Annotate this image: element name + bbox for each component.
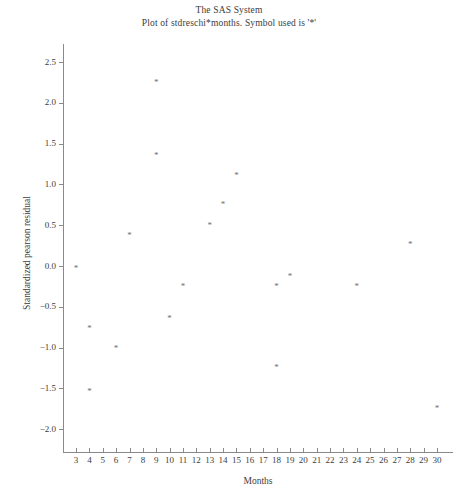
x-axis-tick [250,448,251,453]
y-axis-tick [59,62,64,63]
y-axis-tick [59,266,64,267]
y-axis-spine [63,44,64,453]
x-axis-tick-label: 30 [427,455,447,465]
x-axis-tick [370,448,371,453]
x-axis-tick [290,448,291,453]
data-point: * [407,240,414,249]
x-axis-spine [63,452,453,453]
x-axis-tick [424,448,425,453]
data-point: * [286,272,293,281]
data-point: * [220,200,227,209]
data-point: * [353,282,360,291]
x-axis-tick [223,448,224,453]
x-axis-tick [170,448,171,453]
x-axis-tick [143,448,144,453]
data-point: * [86,324,93,333]
data-point: * [233,171,240,180]
y-axis-tick [59,225,64,226]
x-axis-tick [103,448,104,453]
data-point: * [434,404,441,413]
x-axis-tick [89,448,90,453]
x-axis-title: Months [63,476,453,486]
x-axis-tick [196,448,197,453]
x-axis-tick [397,448,398,453]
data-point: * [166,314,173,323]
data-point: * [273,282,280,291]
x-axis-tick [317,448,318,453]
x-axis-tick [210,448,211,453]
data-point: * [180,282,187,291]
x-axis-tick [183,448,184,453]
data-point: * [86,387,93,396]
data-point: * [73,264,80,273]
x-axis-tick [384,448,385,453]
sas-plot-page: The SAS System Plot of stdreschi*months.… [0,0,458,499]
y-axis-tick [59,184,64,185]
data-point: * [153,151,160,160]
y-axis-tick [59,348,64,349]
data-point: * [126,231,133,240]
x-axis-tick [357,448,358,453]
data-point: * [113,344,120,353]
y-axis-tick-labels: −2.0−1.5−1.0−0.50.00.51.01.52.02.5 [14,0,56,499]
data-point: * [153,78,160,87]
x-axis-tick [343,448,344,453]
y-axis-tick-label: 2.5 [20,58,56,67]
x-axis-tick [277,448,278,453]
y-axis-tick-label: 2.0 [20,98,56,107]
y-axis-title: Standardized pearson residual [22,138,32,368]
data-point: * [273,363,280,372]
x-axis-tick [130,448,131,453]
x-axis-tick [156,448,157,453]
y-axis-tick-label: −1.5 [20,384,56,393]
y-axis-tick [59,429,64,430]
data-point: * [206,221,213,230]
y-axis-tick-label: −2.0 [20,425,56,434]
y-axis-tick [59,388,64,389]
y-axis-tick [59,103,64,104]
x-axis-tick [76,448,77,453]
x-axis-tick [330,448,331,453]
x-axis-tick [263,448,264,453]
x-axis-tick [236,448,237,453]
x-axis-tick [410,448,411,453]
x-axis-tick [116,448,117,453]
y-axis-tick [59,144,64,145]
x-axis-tick [437,448,438,453]
scatter-plot: −2.0−1.5−1.0−0.50.00.51.01.52.02.5 34567… [0,0,458,499]
x-axis-tick [303,448,304,453]
y-axis-tick [59,307,64,308]
